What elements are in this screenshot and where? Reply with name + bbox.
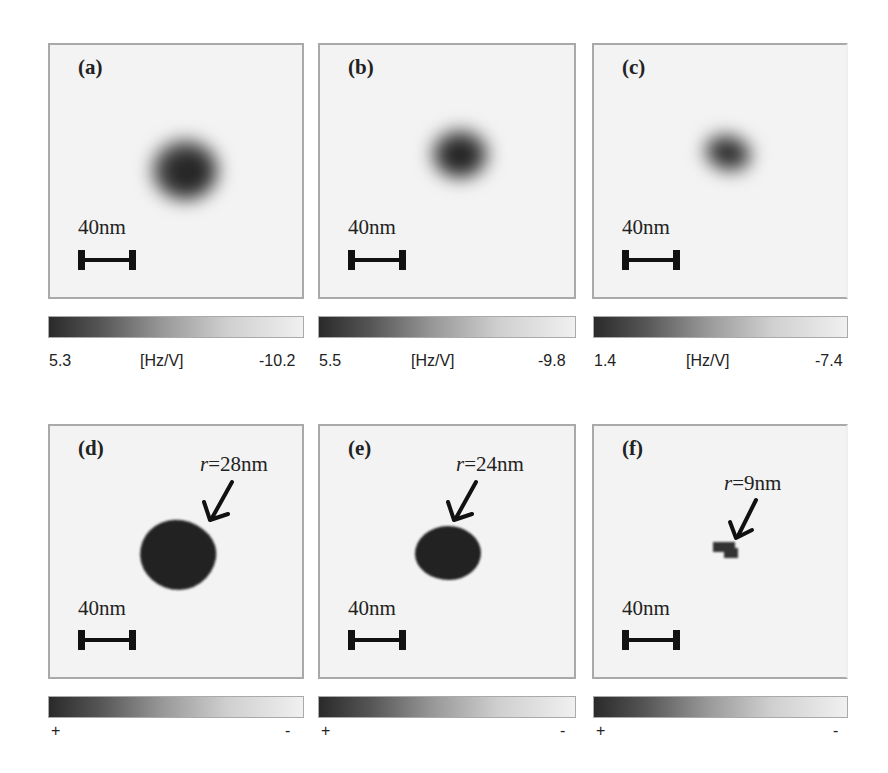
- radius-variable: r: [200, 452, 208, 476]
- scale-bar: [78, 250, 136, 270]
- colorbar-max-label: -10.2: [259, 352, 295, 370]
- colorbar-unit-label: [Hz/V]: [140, 352, 184, 370]
- scale-bar-label: 40nm: [78, 215, 126, 240]
- colorbar-max-label: -9.8: [538, 352, 566, 370]
- colorbar-f: [593, 696, 848, 718]
- scale-bar-label: 40nm: [622, 596, 670, 621]
- scale-bar: [78, 630, 136, 650]
- radius-variable: r: [456, 452, 464, 476]
- segmented-region: [415, 526, 481, 580]
- colorbar-a: [48, 316, 304, 338]
- arrow-icon: [444, 478, 484, 528]
- panel-e: (e) r=24nm 40nm: [318, 424, 576, 679]
- radius-variable: r: [724, 471, 732, 495]
- arrow-icon: [200, 478, 240, 528]
- colorbar-plus-label: +: [321, 722, 330, 740]
- colorbar-unit-label: [Hz/V]: [686, 352, 730, 370]
- scale-bar: [622, 250, 680, 270]
- arrow-icon: [726, 496, 766, 546]
- panel-d: (d) r=28nm 40nm: [48, 424, 304, 679]
- colorbar-min-label: 5.3: [49, 352, 71, 370]
- scale-bar-label: 40nm: [78, 596, 126, 621]
- panel-f: (f) r=9nm 40nm: [592, 424, 848, 679]
- scale-bar: [348, 630, 406, 650]
- colorbar-plus-label: +: [51, 722, 60, 740]
- colorbar-e: [318, 696, 576, 718]
- panel-a: (a) 40nm: [48, 43, 304, 299]
- colorbar-min-label: 5.5: [319, 352, 341, 370]
- colorbar-max-label: -7.4: [815, 352, 843, 370]
- panel-c: (c) 40nm: [592, 43, 848, 299]
- segmented-region-tail: [724, 548, 738, 558]
- colorbar-plus-label: +: [596, 722, 605, 740]
- panel-b: (b) 40nm: [318, 43, 576, 299]
- colorbar-c: [593, 316, 848, 338]
- radius-value: =24nm: [464, 452, 524, 476]
- signal-spot: [152, 140, 218, 200]
- colorbar-minus-label: -: [560, 722, 565, 740]
- colorbar-b: [318, 316, 576, 338]
- colorbar-minus-label: -: [833, 722, 838, 740]
- scale-bar: [622, 630, 680, 650]
- radius-annotation: r=28nm: [200, 452, 268, 477]
- signal-spot: [700, 129, 756, 176]
- radius-value: =9nm: [732, 471, 781, 495]
- radius-annotation: r=24nm: [456, 452, 524, 477]
- panel-label: (b): [348, 55, 374, 80]
- panel-label: (e): [348, 436, 371, 461]
- colorbar-d: [48, 696, 304, 718]
- colorbar-unit-label: [Hz/V]: [411, 352, 455, 370]
- scale-bar-label: 40nm: [348, 596, 396, 621]
- scale-bar-label: 40nm: [348, 215, 396, 240]
- panel-label: (f): [622, 436, 643, 461]
- panel-label: (a): [78, 55, 103, 80]
- scale-bar: [348, 250, 406, 270]
- panel-label: (c): [622, 55, 645, 80]
- radius-annotation: r=9nm: [724, 471, 781, 496]
- panel-label: (d): [78, 436, 104, 461]
- radius-value: =28nm: [208, 452, 268, 476]
- colorbar-minus-label: -: [285, 722, 290, 740]
- scale-bar-label: 40nm: [622, 215, 670, 240]
- colorbar-min-label: 1.4: [594, 352, 616, 370]
- signal-spot: [432, 130, 488, 178]
